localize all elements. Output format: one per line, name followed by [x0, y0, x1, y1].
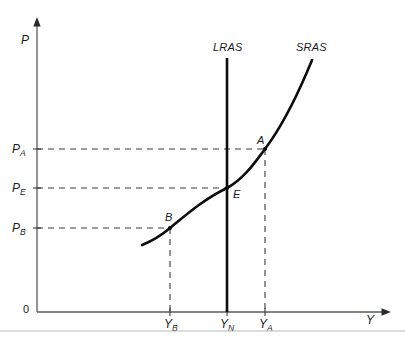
- axes-group: [33, 17, 391, 316]
- aggregate-supply-chart: P Y 0 PA PE: [0, 0, 405, 339]
- point-a-label: A: [256, 134, 264, 146]
- x-axis-arrowhead: [382, 308, 392, 315]
- y-tick-label-pb: PB: [12, 221, 26, 237]
- lras-label: LRAS: [213, 41, 243, 53]
- sras-label: SRAS: [296, 41, 327, 53]
- point-b-label: B: [165, 211, 172, 223]
- output-guide-lines: [170, 149, 265, 312]
- point-a-marker: [263, 147, 267, 151]
- x-axis-label: Y: [366, 313, 375, 327]
- origin-label: 0: [23, 303, 29, 315]
- axis-ticks: [33, 149, 265, 316]
- point-e-marker: [225, 186, 229, 190]
- point-b-marker: [168, 226, 172, 230]
- y-axis-label: P: [21, 33, 29, 47]
- y-axis-arrowhead: [33, 17, 40, 27]
- y-tick-label-pe: PE: [12, 181, 26, 197]
- point-e-label: E: [233, 188, 241, 200]
- price-guide-lines: [37, 149, 265, 228]
- y-tick-labels: PA PE PB: [12, 142, 26, 237]
- y-tick-label-pa: PA: [12, 142, 26, 158]
- as-diagram-figure: P Y 0 PA PE: [0, 0, 405, 339]
